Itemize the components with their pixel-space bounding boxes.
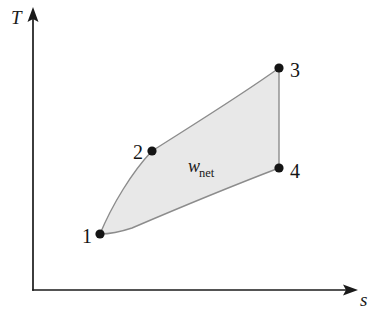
state-point-3-label: 3 <box>290 59 300 81</box>
temperature-axis-label: T <box>11 7 23 28</box>
state-point-4-dot <box>274 163 283 172</box>
state-point-2-dot <box>147 146 156 155</box>
ts-diagram-figure: T s 1 2 3 4 w net <box>0 0 387 317</box>
state-point-3-dot <box>274 63 283 72</box>
state-point-2-label: 2 <box>133 141 143 163</box>
net-work-shaded-region <box>100 68 279 234</box>
net-work-label-subscript: net <box>199 166 215 180</box>
ts-diagram-canvas: T s 1 2 3 4 w net <box>0 0 387 317</box>
state-point-1-label: 1 <box>82 225 92 247</box>
entropy-axis-label: s <box>360 289 367 310</box>
state-point-1-dot <box>95 229 104 238</box>
state-point-4-label: 4 <box>290 160 300 182</box>
